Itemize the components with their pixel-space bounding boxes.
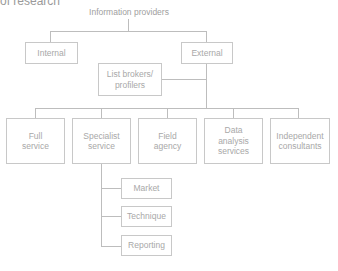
connector-level1-horizontal xyxy=(50,31,207,32)
node-technique: Technique xyxy=(121,206,172,227)
root-node-information-providers: Information providers xyxy=(86,7,172,17)
node-data-analysis-services: Data analysis services xyxy=(204,118,263,164)
node-data-analysis-label: Data analysis services xyxy=(218,125,249,157)
connector-to-field-agency xyxy=(167,108,168,118)
connector-to-reporting xyxy=(101,246,121,247)
node-independent-consultants: Independent consultants xyxy=(270,118,330,164)
connector-to-external xyxy=(206,31,207,42)
node-list-brokers-profilers: List brokers/ profilers xyxy=(98,63,162,96)
node-specialist-service: Specialist service xyxy=(72,118,131,164)
node-external: External xyxy=(181,42,233,64)
node-full-service: Full service xyxy=(6,118,65,164)
connector-to-specialist-service xyxy=(101,108,102,118)
connector-to-independent xyxy=(298,108,299,118)
connector-to-technique xyxy=(101,216,121,217)
node-list-brokers-label: List brokers/ profilers xyxy=(107,69,153,90)
node-full-service-label: Full service xyxy=(22,131,49,152)
connector-specialist-trunk xyxy=(101,164,102,247)
node-market: Market xyxy=(121,178,172,199)
node-field-agency: Field agency xyxy=(138,118,197,164)
connector-to-internal xyxy=(50,31,51,42)
connector-to-market xyxy=(101,188,121,189)
section-heading-fragment: of research xyxy=(0,0,60,8)
node-technique-label: Technique xyxy=(127,211,166,222)
connector-to-data-analysis xyxy=(233,108,234,118)
node-internal: Internal xyxy=(25,42,78,64)
node-field-agency-label: Field agency xyxy=(154,131,181,152)
node-market-label: Market xyxy=(134,183,160,194)
node-independent-consultants-label: Independent consultants xyxy=(276,131,323,152)
node-external-label: External xyxy=(191,48,222,59)
connector-root-down xyxy=(128,19,129,31)
node-specialist-service-label: Specialist service xyxy=(83,131,119,152)
connector-external-trunk xyxy=(206,64,207,109)
connector-to-full-service xyxy=(35,108,36,118)
node-reporting: Reporting xyxy=(121,235,172,256)
connector-to-list-brokers xyxy=(161,79,207,80)
node-internal-label: Internal xyxy=(37,48,65,59)
node-reporting-label: Reporting xyxy=(128,240,165,251)
